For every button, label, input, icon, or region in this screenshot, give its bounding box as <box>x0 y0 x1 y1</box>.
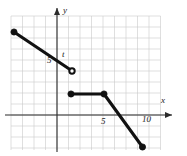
coordinate-graph-figure: y x 5 5 10 t <box>0 0 187 156</box>
grid-vertical-lines <box>11 16 161 150</box>
y-axis-label: y <box>62 5 67 15</box>
axis-labels: y x <box>62 5 165 105</box>
curve-label-t: t <box>62 49 65 59</box>
data-point-closed <box>101 91 107 97</box>
y-tick-label-5: 5 <box>47 55 52 65</box>
data-point-markers <box>11 29 146 150</box>
data-point-closed <box>68 91 74 97</box>
x-tick-label-5: 5 <box>101 116 106 126</box>
x-tick-label-10: 10 <box>142 114 152 124</box>
data-point-closed <box>11 29 17 35</box>
x-axis-label: x <box>160 95 165 105</box>
graph-canvas: y x 5 5 10 t <box>0 0 187 156</box>
y-axis-arrow-icon <box>54 8 60 15</box>
data-segment-3 <box>104 94 143 147</box>
data-point-open <box>69 68 74 73</box>
x-axis-arrow-icon <box>165 112 172 118</box>
grid-horizontal-lines <box>11 16 161 148</box>
curve-annotation: t <box>62 49 65 59</box>
y-axis <box>54 8 60 152</box>
data-point-closed <box>139 144 145 150</box>
